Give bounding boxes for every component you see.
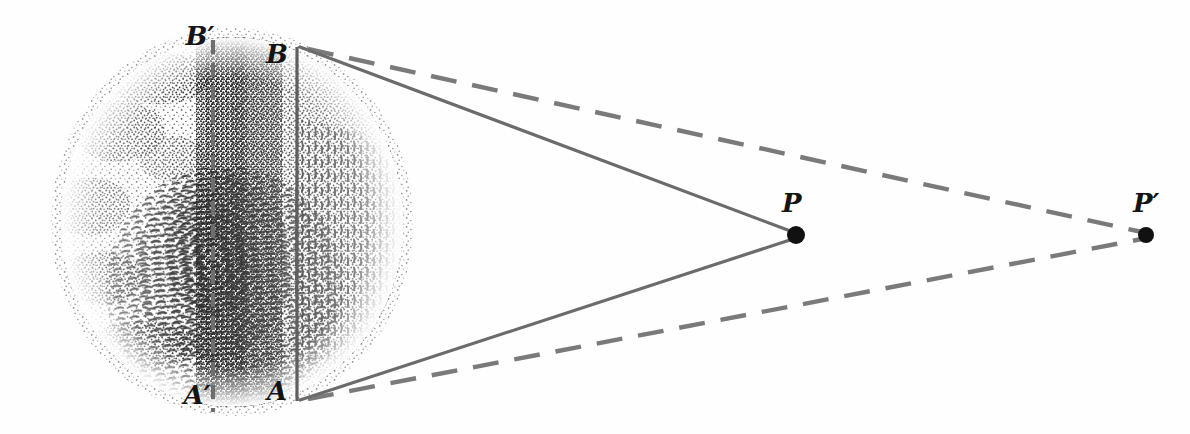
globe-edge-fade: [60, 37, 404, 407]
label-a-prime: A′: [180, 380, 210, 410]
label-p-prime: P′: [1132, 188, 1160, 218]
figure-canvas: B′ B A′ A P P′: [0, 0, 1190, 434]
sight-line-a-to-p-prime: [308, 239, 1142, 399]
sight-line-b-to-p-prime: [308, 49, 1142, 232]
parallax-figure: B′ B A′ A P P′: [0, 0, 1190, 434]
sight-lines-to-p-prime: [308, 49, 1142, 399]
label-p: P: [781, 188, 803, 218]
point-p-prime: [1138, 227, 1154, 243]
label-a: A: [264, 376, 287, 406]
point-p: [787, 226, 805, 244]
label-b-prime: B′: [185, 21, 215, 51]
label-b: B: [265, 39, 288, 69]
